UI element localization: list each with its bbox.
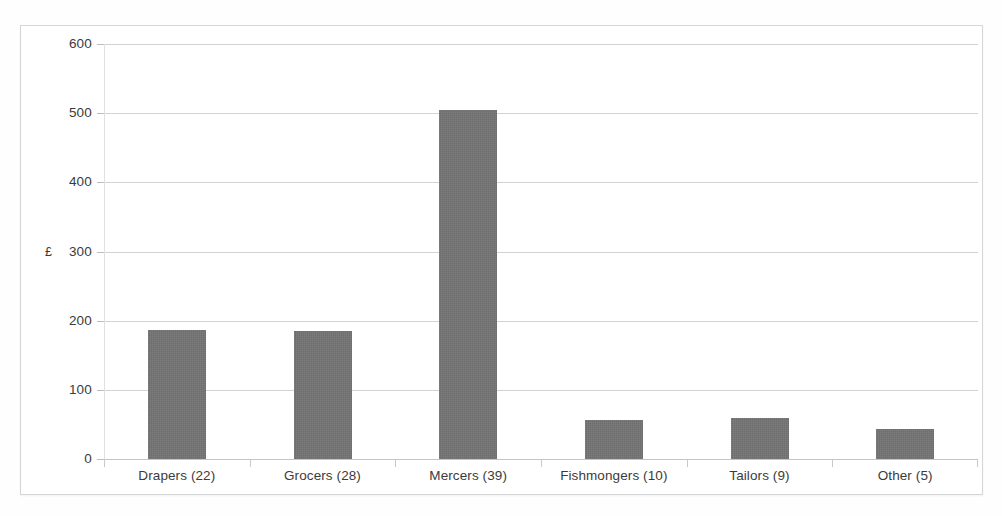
y-axis-line	[104, 44, 105, 459]
bar-2	[439, 110, 497, 459]
gridline-300	[104, 252, 978, 253]
y-axis-label-100: 100	[69, 383, 92, 397]
y-axis-label-300: 300	[69, 245, 92, 259]
x-axis-label-4: Tailors (9)	[687, 468, 833, 484]
gridline-500	[104, 113, 978, 114]
plot-area	[104, 44, 978, 459]
x-tick-mark-1	[250, 459, 251, 467]
y-axis-label-200: 200	[69, 314, 92, 328]
y-axis-label-500: 500	[69, 106, 92, 120]
x-axis-tick-labels: Drapers (22)Grocers (28)Mercers (39)Fish…	[104, 468, 978, 490]
y-tick-mark-500	[97, 113, 104, 114]
y-axis-label-600: 600	[69, 37, 92, 51]
bar-1	[294, 331, 352, 459]
bar-5	[876, 429, 934, 459]
x-tick-mark-4	[687, 459, 688, 467]
x-tick-mark-5	[832, 459, 833, 467]
y-tick-mark-0	[97, 459, 104, 460]
y-axis-label-0: 0	[84, 452, 92, 466]
x-axis-label-3: Fishmongers (10)	[541, 468, 687, 484]
gridline-100	[104, 390, 978, 391]
bar-3	[585, 420, 643, 459]
y-axis-label-400: 400	[69, 175, 92, 189]
gridline-400	[104, 182, 978, 183]
y-tick-mark-400	[97, 182, 104, 183]
y-tick-mark-200	[97, 321, 104, 322]
x-tick-mark-3	[541, 459, 542, 467]
y-tick-mark-100	[97, 390, 104, 391]
y-tick-mark-600	[97, 44, 104, 45]
x-tick-mark-2	[395, 459, 396, 467]
x-axis-label-0: Drapers (22)	[104, 468, 250, 484]
gridline-600	[104, 44, 978, 45]
y-tick-mark-300	[97, 252, 104, 253]
gridline-200	[104, 321, 978, 322]
x-axis-label-1: Grocers (28)	[250, 468, 396, 484]
x-tick-mark-0	[104, 459, 105, 467]
x-tick-mark-6	[977, 459, 978, 467]
x-axis-label-5: Other (5)	[832, 468, 978, 484]
bar-0	[148, 330, 206, 459]
x-axis-label-2: Mercers (39)	[395, 468, 541, 484]
bar-4	[731, 418, 789, 460]
x-axis-ticks	[104, 459, 978, 467]
y-axis-title: £	[45, 246, 52, 259]
scanned-page: 0100200300400500600 £ Drapers (22)Grocer…	[0, 0, 1002, 516]
